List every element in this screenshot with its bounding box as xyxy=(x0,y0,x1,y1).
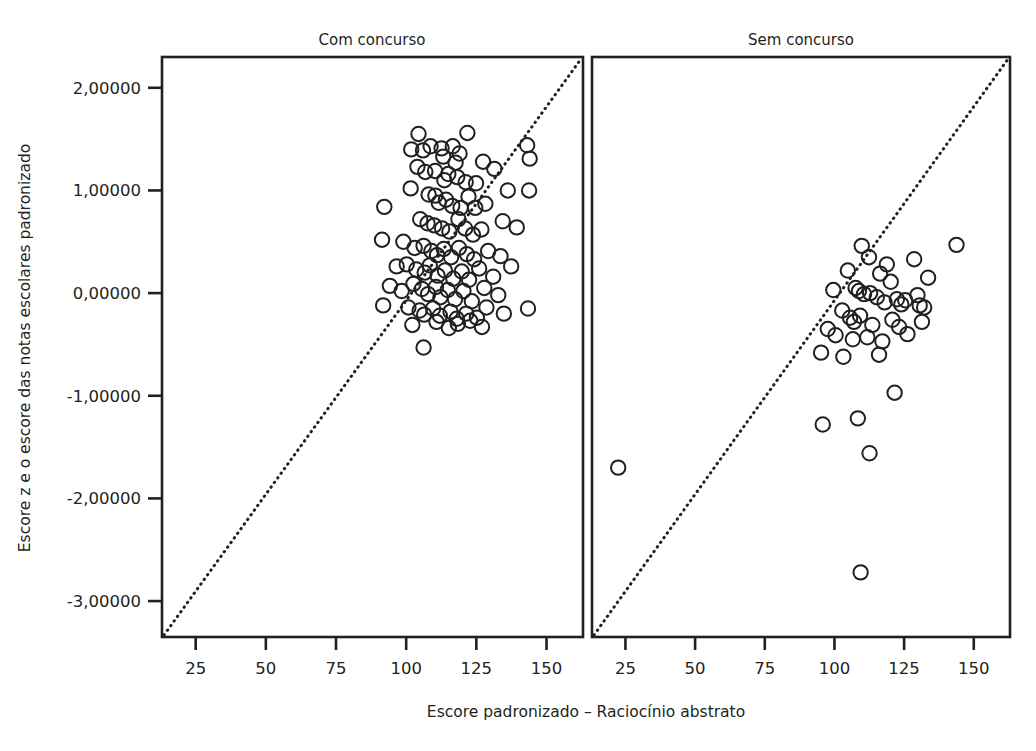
x-tick-label-125: 125 xyxy=(888,659,920,678)
x-tick-label-25: 25 xyxy=(615,659,636,678)
y-tick-label-2: 2,00000 xyxy=(73,79,141,98)
y-tick-label-1: 1,00000 xyxy=(73,181,141,200)
y-tick-label-0: 0,00000 xyxy=(73,284,141,303)
panel-title-sem-concurso: Sem concurso xyxy=(748,31,854,49)
x-tick-label-75: 75 xyxy=(326,659,347,678)
x-tick-label-100: 100 xyxy=(819,659,851,678)
scatter-plot-figure: Escore z e o escore das notas escolares … xyxy=(0,0,1036,751)
y-tick-label--1: -1,00000 xyxy=(67,387,141,406)
x-tick-label-125: 125 xyxy=(461,659,493,678)
chart-canvas: Escore z e o escore das notas escolares … xyxy=(0,0,1036,751)
x-tick-label-50: 50 xyxy=(685,659,706,678)
y-tick-label--2: -2,00000 xyxy=(67,489,141,508)
x-tick-label-25: 25 xyxy=(185,659,206,678)
x-tick-label-100: 100 xyxy=(390,659,422,678)
y-tick-label--3: -3,00000 xyxy=(67,592,141,611)
x-tick-label-75: 75 xyxy=(754,659,775,678)
x-tick-label-50: 50 xyxy=(255,659,276,678)
y-axis-title: Escore z e o escore das notas escolares … xyxy=(16,144,34,552)
x-tick-label-150: 150 xyxy=(958,659,990,678)
panel-title-com-concurso: Com concurso xyxy=(319,31,426,49)
chart-background xyxy=(0,0,1036,751)
x-tick-label-150: 150 xyxy=(531,659,563,678)
x-axis-title: Escore padronizado – Raciocínio abstrato xyxy=(427,703,745,721)
